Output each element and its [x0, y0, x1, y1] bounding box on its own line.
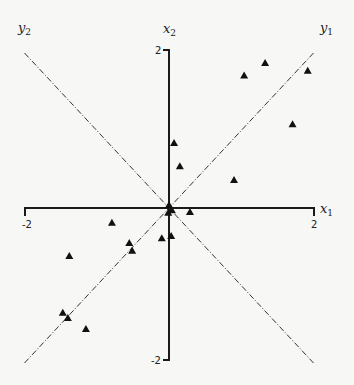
triangle-marker — [65, 252, 73, 259]
triangle-marker — [261, 59, 269, 66]
triangle-marker — [82, 325, 90, 332]
y1-line-label: y1 — [319, 20, 333, 37]
scatter-chart: -2 2 -2 2 x1 x2 y1 y2 — [0, 0, 354, 385]
x1-axis-label: x1 — [320, 201, 333, 218]
triangle-marker — [59, 309, 67, 316]
x2-axis-label: x2 — [163, 21, 176, 38]
triangle-marker — [289, 120, 297, 127]
triangle-marker — [230, 176, 238, 183]
y-min-tick-label: -2 — [151, 355, 161, 366]
triangle-marker — [176, 162, 184, 169]
x-max-tick-label: 2 — [311, 219, 317, 230]
triangle-marker — [170, 139, 178, 146]
triangle-marker — [304, 67, 312, 74]
x-min-tick-label: -2 — [22, 219, 32, 230]
y2-line-label: y2 — [17, 20, 31, 37]
y-max-tick-label: 2 — [155, 45, 161, 56]
triangle-marker — [125, 239, 133, 246]
data-markers — [59, 59, 312, 332]
triangle-marker — [108, 219, 116, 226]
triangle-marker — [240, 71, 248, 78]
triangle-marker — [158, 234, 166, 241]
